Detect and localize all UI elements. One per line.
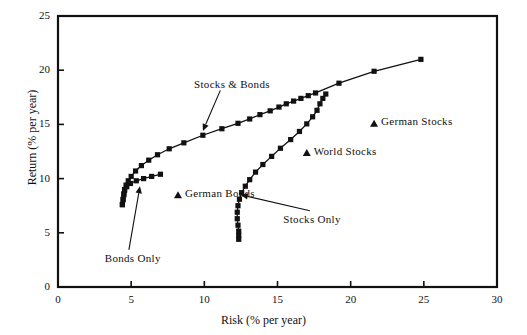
data-point: [247, 116, 252, 121]
data-point: [247, 177, 252, 182]
single-point-marker: [303, 149, 311, 156]
data-point: [128, 181, 133, 186]
data-point: [200, 133, 205, 138]
x-tick-label-10: 10: [189, 293, 219, 305]
series-line-0: [122, 59, 421, 204]
x-tick-label-25: 25: [409, 293, 439, 305]
annotation-arrow-stocks-bonds-shaft: [206, 90, 221, 124]
data-point: [253, 170, 258, 175]
data-point: [219, 126, 224, 131]
data-point: [298, 96, 303, 101]
data-point: [121, 197, 126, 202]
data-point: [235, 203, 240, 208]
data-point: [158, 172, 163, 177]
data-point: [236, 229, 241, 234]
data-point: [139, 163, 144, 168]
data-point: [323, 91, 328, 96]
data-point: [284, 101, 289, 106]
annotation-arrow-bonds-only-shaft: [129, 193, 139, 250]
single-point-marker: [370, 120, 378, 127]
data-point: [181, 140, 186, 145]
x-tick-label-15: 15: [263, 293, 293, 305]
data-point: [129, 174, 134, 179]
data-point: [167, 146, 172, 151]
data-point: [269, 154, 274, 159]
data-point: [146, 158, 151, 163]
data-point: [418, 57, 423, 62]
y-tick-label-20: 20: [26, 63, 50, 75]
x-tick-label-20: 20: [336, 293, 366, 305]
y-tick-label-15: 15: [26, 117, 50, 129]
x-tick-label-0: 0: [43, 293, 73, 305]
x-axis-title: Risk (% per year): [0, 313, 527, 328]
annotation-arrow-stocks-only-shaft: [248, 196, 310, 210]
data-point: [155, 152, 160, 157]
data-point: [310, 114, 315, 119]
data-point: [268, 108, 273, 113]
data-point: [276, 104, 281, 109]
marker-label-german-bonds: German Bonds: [185, 187, 255, 199]
data-point: [306, 93, 311, 98]
chart-plot-area: [0, 0, 527, 335]
y-tick-label-5: 5: [26, 226, 50, 238]
marker-label-world-stocks: World Stocks: [314, 145, 377, 157]
single-point-marker: [174, 191, 182, 198]
annotation-stocks-bonds: Stocks & Bonds: [194, 78, 270, 90]
data-point: [336, 81, 341, 86]
chart-figure: Return (% per year) Risk (% per year) 05…: [0, 0, 527, 335]
x-tick-label-30: 30: [482, 293, 512, 305]
marker-label-german-stocks: German Stocks: [381, 115, 452, 127]
annotation-arrow-bonds-only-head: [136, 186, 142, 193]
y-axis-title: Return (% per year): [25, 58, 40, 218]
data-point: [235, 223, 240, 228]
data-point: [141, 176, 146, 181]
data-point: [288, 137, 293, 142]
data-point: [371, 69, 376, 74]
data-point: [278, 146, 283, 151]
data-point: [317, 101, 322, 106]
data-point: [304, 121, 309, 126]
data-point: [297, 129, 302, 134]
data-point: [235, 210, 240, 215]
annotation-stocks-only: Stocks Only: [283, 213, 340, 225]
y-tick-label-0: 0: [26, 280, 50, 292]
data-point: [235, 121, 240, 126]
x-tick-label-5: 5: [116, 293, 146, 305]
data-point: [291, 98, 296, 103]
annotation-bonds-only: Bonds Only: [105, 252, 161, 264]
y-tick-label-10: 10: [26, 172, 50, 184]
data-point: [313, 90, 318, 95]
data-point: [314, 108, 319, 113]
data-point: [235, 216, 240, 221]
y-tick-label-25: 25: [26, 9, 50, 21]
data-point: [133, 168, 138, 173]
data-point: [257, 112, 262, 117]
data-point: [149, 174, 154, 179]
data-point: [260, 162, 265, 167]
data-point: [134, 178, 139, 183]
data-point: [120, 202, 125, 207]
